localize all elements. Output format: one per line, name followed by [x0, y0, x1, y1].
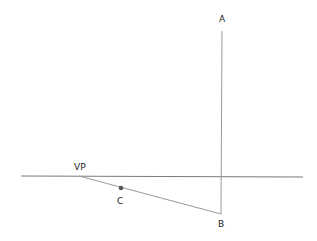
- perspective-diagram: A VP C B: [0, 0, 317, 241]
- label-b: B: [218, 219, 224, 229]
- label-c: C: [117, 196, 123, 206]
- horizon-line: [21, 176, 303, 177]
- orthogonal-line-vp-b: [79, 176, 221, 214]
- label-a: A: [219, 14, 226, 24]
- point-c-marker: [119, 186, 124, 191]
- vertical-line-a-b: [221, 31, 222, 214]
- label-vp: VP: [74, 162, 86, 172]
